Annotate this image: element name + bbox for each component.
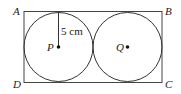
centre-q-label: Q xyxy=(116,41,124,53)
geometry-diagram: A B C D P Q 5 cm xyxy=(0,0,181,94)
vertex-b-label: B xyxy=(165,5,172,17)
centre-q-dot xyxy=(126,45,130,49)
vertex-d-label: D xyxy=(12,78,21,90)
vertex-c-label: C xyxy=(165,78,173,90)
vertex-a-label: A xyxy=(12,5,20,17)
centre-p-label: P xyxy=(46,41,54,53)
radius-label: 5 cm xyxy=(61,25,83,37)
centre-p-dot xyxy=(57,45,61,49)
